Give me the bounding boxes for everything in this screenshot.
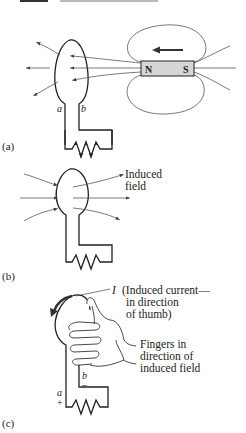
magnet-north-label: N bbox=[145, 64, 153, 75]
resistor-c bbox=[66, 362, 108, 414]
terminal-b-label: b bbox=[81, 103, 86, 114]
panel-c: I (Induced current— in direction of thum… bbox=[2, 284, 210, 430]
terminal-b-sign: – bbox=[81, 379, 88, 390]
panel-b: Induced field (b) bbox=[2, 168, 162, 283]
fingers-note-line2: direction of bbox=[140, 350, 193, 362]
induced-field-label-line1: Induced bbox=[125, 168, 162, 180]
induced-field-label-line2: field bbox=[125, 180, 146, 192]
panel-c-label: (c) bbox=[2, 417, 15, 430]
current-note-line2: in direction bbox=[126, 296, 179, 308]
terminal-a-sign: + bbox=[57, 397, 63, 408]
panel-a: N S a b (a) bbox=[2, 25, 236, 157]
resistor-b bbox=[66, 228, 112, 269]
current-note-line3: of thumb) bbox=[126, 308, 172, 321]
fingers-note-line3: induced field bbox=[140, 362, 201, 374]
panel-a-label: (a) bbox=[2, 140, 15, 153]
induction-figure: N S a b (a) Induced field (b) bbox=[0, 0, 246, 433]
magnet-south-label: S bbox=[183, 64, 189, 75]
panel-b-label: (b) bbox=[2, 270, 15, 283]
current-symbol: I bbox=[111, 284, 117, 296]
wire-loop-b bbox=[56, 169, 88, 228]
terminal-a-label: a bbox=[57, 103, 62, 114]
